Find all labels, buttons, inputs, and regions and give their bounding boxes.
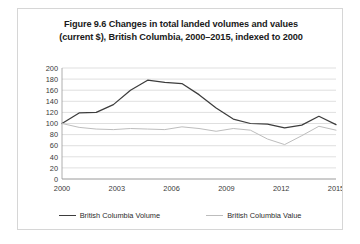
y-tick-label: 100	[46, 119, 58, 128]
x-tick-label: 2006	[163, 184, 179, 193]
x-tick-label: 2012	[273, 184, 289, 193]
y-tick-label: 60	[50, 141, 58, 150]
chart-plot-area: 020406080100120140160180200 200020032006…	[18, 64, 342, 204]
legend-label-volume: British Columbia Volume	[80, 211, 161, 220]
y-tick-label: 120	[46, 108, 58, 117]
y-tick-label: 160	[46, 86, 58, 95]
chart-x-axis-labels: 200020032006200920122015	[54, 184, 342, 193]
y-tick-label: 80	[50, 130, 58, 139]
figure-title: Figure 9.6 Changes in total landed volum…	[28, 18, 334, 43]
line-chart-svg: 020406080100120140160180200 200020032006…	[18, 64, 342, 204]
x-tick-label: 2000	[54, 184, 70, 193]
chart-legend: British Columbia Volume British Columbia…	[18, 207, 342, 223]
x-tick-label: 2003	[109, 184, 125, 193]
legend-item-volume: British Columbia Volume	[59, 211, 161, 220]
figure-title-line-1: Figure 9.6 Changes in total landed volum…	[28, 18, 334, 31]
x-tick-label: 2009	[218, 184, 234, 193]
series-line-british-columbia-volume	[62, 80, 336, 128]
y-tick-label: 0	[54, 175, 58, 184]
legend-label-value: British Columbia Value	[227, 211, 301, 220]
legend-item-value: British Columbia Value	[206, 211, 301, 220]
y-tick-label: 140	[46, 97, 58, 106]
figure-card: Figure 9.6 Changes in total landed volum…	[17, 8, 343, 230]
legend-swatch-value-icon	[206, 215, 223, 216]
chart-gridlines	[62, 68, 336, 179]
chart-y-axis-labels: 020406080100120140160180200	[46, 64, 58, 184]
y-tick-label: 180	[46, 75, 58, 84]
x-tick-label: 2015	[328, 184, 342, 193]
y-tick-label: 20	[50, 164, 58, 173]
y-tick-label: 40	[50, 153, 58, 162]
figure-title-line-2: (current $), British Columbia, 2000–2015…	[28, 31, 334, 44]
y-tick-label: 200	[46, 64, 58, 73]
legend-swatch-volume-icon	[59, 215, 76, 216]
